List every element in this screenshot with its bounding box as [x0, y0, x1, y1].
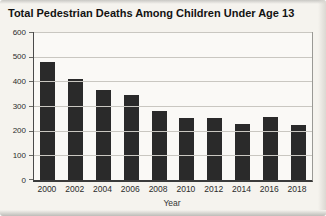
x-axis-title: Year [33, 198, 311, 208]
bar-2002 [68, 79, 83, 180]
y-tick-mark [29, 57, 33, 58]
gridline [34, 81, 312, 82]
y-tick-mark [29, 81, 33, 82]
x-tick-label: 2000 [33, 184, 61, 194]
y-tick-mark [29, 106, 33, 107]
x-tick-label: 2014 [228, 184, 256, 194]
bar-2010 [179, 118, 194, 180]
x-tick-label: 2012 [200, 184, 228, 194]
x-tick-label: 2006 [116, 184, 144, 194]
plot-area [33, 32, 313, 182]
y-tick-mark [29, 155, 33, 156]
x-tick-label: 2008 [144, 184, 172, 194]
bar-2018 [291, 125, 306, 180]
gridline [34, 32, 312, 33]
bar-2014 [235, 124, 250, 180]
y-tick-mark [29, 179, 33, 180]
gridline [34, 57, 312, 58]
y-axis-label: 100 [0, 151, 26, 160]
bar-2000 [40, 62, 55, 180]
page-edge-shadow-top [0, 0, 326, 4]
y-axis-label: 200 [0, 126, 26, 135]
x-axis-labels: 2000200220042006200820102012201420162018 [33, 184, 311, 194]
y-axis-label: 400 [0, 77, 26, 86]
page-edge-shadow-right [318, 0, 326, 216]
y-axis-label: 0 [0, 176, 26, 185]
bar-2012 [207, 118, 222, 180]
x-tick-label: 2002 [61, 184, 89, 194]
chart-title: Total Pedestrian Deaths Among Children U… [8, 7, 320, 19]
y-tick-mark [29, 131, 33, 132]
bar-2008 [152, 111, 167, 180]
x-tick-label: 2004 [89, 184, 117, 194]
y-axis-label: 600 [0, 28, 26, 37]
bar-2016 [263, 117, 278, 180]
y-tick-mark [29, 32, 33, 33]
x-tick-label: 2010 [172, 184, 200, 194]
page-edge-shadow-bottom [0, 210, 326, 216]
y-axis: 0100200300400500600 [0, 32, 28, 180]
gridline [34, 155, 312, 156]
x-tick-label: 2018 [283, 184, 311, 194]
x-tick-label: 2016 [255, 184, 283, 194]
y-axis-label: 500 [0, 52, 26, 61]
y-axis-label: 300 [0, 102, 26, 111]
bar-2006 [124, 95, 139, 180]
gridline [34, 131, 312, 132]
bar-2004 [96, 90, 111, 180]
scanned-chart-page: Total Pedestrian Deaths Among Children U… [0, 0, 326, 216]
gridline [34, 106, 312, 107]
